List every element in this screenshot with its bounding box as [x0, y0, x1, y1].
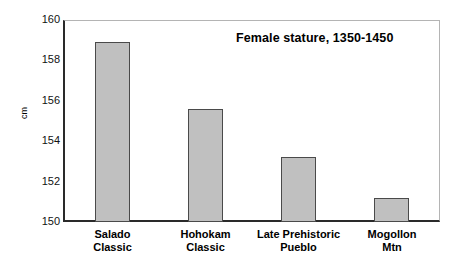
x-axis-label-line2: Pueblo [246, 241, 351, 254]
x-axis-label-mogollon-mtn: Mogollon Mtn [351, 228, 433, 254]
x-axis-label-line2: Classic [72, 241, 153, 254]
bar-mogollon-mtn[interactable] [374, 198, 409, 222]
y-axis-tick-labels: 150 152 154 156 158 160 [27, 20, 60, 222]
y-tick-label-150: 150 [30, 216, 60, 227]
y-tick-label-158: 158 [30, 54, 60, 65]
x-axis-label-line1: Mogollon [351, 228, 433, 241]
y-tick-label-156: 156 [30, 95, 60, 106]
y-tick-label-154: 154 [30, 135, 60, 146]
y-tick-label-160: 160 [30, 14, 60, 25]
x-axis-label-hohokam-classic: Hohokam Classic [164, 228, 247, 254]
x-axis-label-line1: Hohokam [164, 228, 247, 241]
bar-late-prehistoric-pueblo[interactable] [281, 157, 316, 222]
x-axis-label-late-prehistoric-pueblo: Late Prehistoric Pueblo [246, 228, 351, 254]
bar-hohokam-classic[interactable] [188, 109, 223, 222]
y-tick-label-152: 152 [30, 176, 60, 187]
x-axis-label-salado-classic: Salado Classic [72, 228, 153, 254]
bar-chart: cm 150 152 154 156 158 160 Female statur… [0, 0, 461, 271]
x-axis-label-line2: Mtn [351, 241, 433, 254]
x-axis-label-line1: Salado [72, 228, 153, 241]
x-axis-label-line1: Late Prehistoric [246, 228, 351, 241]
chart-title: Female stature, 1350-1450 [236, 31, 393, 45]
bar-salado-classic[interactable] [95, 42, 130, 222]
x-axis-label-line2: Classic [164, 241, 247, 254]
